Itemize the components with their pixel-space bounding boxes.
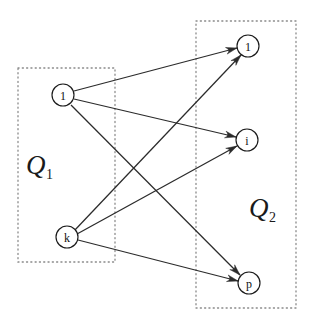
edge-line	[78, 240, 238, 281]
edge-line	[77, 146, 237, 234]
group-boxes-layer	[18, 21, 296, 308]
group-label-q2: Q2	[249, 195, 276, 222]
nodes-layer: 1k1ip	[52, 35, 260, 294]
group-label-subscript: 2	[269, 209, 276, 225]
edge-line	[74, 99, 236, 137]
group-label-q1: Q1	[26, 152, 53, 179]
group-label-subscript: 1	[46, 166, 53, 182]
edge-line	[74, 55, 241, 231]
edge-line	[71, 105, 240, 275]
node-label: k	[64, 231, 70, 245]
edge-q1-1-to-q2-p	[71, 105, 240, 275]
node-q1-k[interactable]: k	[56, 226, 78, 248]
node-q2-p[interactable]: p	[238, 272, 260, 294]
diagram-canvas: 1k1ip Q1 Q2	[0, 0, 316, 323]
edges-layer	[71, 48, 241, 282]
edge-q1-k-to-q2-i	[77, 146, 237, 234]
group-label-base: Q	[26, 150, 46, 180]
node-q1-1[interactable]: 1	[52, 84, 74, 106]
node-label: 1	[60, 89, 66, 103]
node-label: p	[246, 277, 252, 291]
edge-q1-k-to-q2-1	[74, 55, 241, 231]
arrowhead-icon	[226, 146, 237, 154]
group-label-base: Q	[249, 193, 269, 223]
node-q2-i[interactable]: i	[236, 129, 258, 151]
node-label: 1	[245, 40, 251, 54]
group-box-q2	[196, 21, 296, 308]
edge-q1-k-to-q2-p	[78, 240, 238, 282]
node-q2-1[interactable]: 1	[237, 35, 259, 57]
